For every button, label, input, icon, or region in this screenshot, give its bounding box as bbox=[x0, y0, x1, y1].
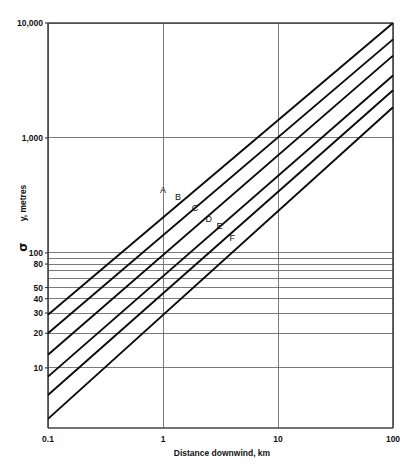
x-tick-label: 10 bbox=[273, 434, 283, 444]
sigma-y-dispersion-chart: ABCDEF 10,0001,000100805040302010 0.1110… bbox=[0, 0, 416, 469]
curve-label-a: A bbox=[160, 185, 166, 195]
y-tick-label: 20 bbox=[34, 328, 44, 338]
curve-label-d: D bbox=[206, 214, 213, 224]
y-tick-label: 1,000 bbox=[22, 133, 44, 143]
y-tick-label: 10 bbox=[34, 363, 44, 373]
x-tick-label: 100 bbox=[386, 434, 400, 444]
y-tick-label: 40 bbox=[34, 294, 44, 304]
x-tick-label: 0.1 bbox=[42, 434, 54, 444]
y-axis-sigma-symbol: σ bbox=[16, 242, 30, 251]
curve-label-f: F bbox=[229, 233, 235, 243]
x-tick-label: 1 bbox=[161, 434, 166, 444]
y-tick-label: 50 bbox=[34, 283, 44, 293]
curve-label-b: B bbox=[175, 192, 181, 202]
curve-label-c: C bbox=[192, 203, 199, 213]
y-tick-label: 100 bbox=[29, 248, 43, 258]
chart-figure: ABCDEF 10,0001,000100805040302010 0.1110… bbox=[0, 0, 416, 469]
y-tick-label: 30 bbox=[34, 308, 44, 318]
x-axis-title: Distance downwind, km bbox=[174, 448, 271, 458]
y-axis-title-text: y, metres bbox=[18, 184, 28, 221]
chart-background bbox=[0, 0, 416, 469]
y-tick-label: 80 bbox=[34, 259, 44, 269]
curve-label-e: E bbox=[216, 221, 222, 231]
y-tick-label: 10,000 bbox=[17, 18, 43, 28]
